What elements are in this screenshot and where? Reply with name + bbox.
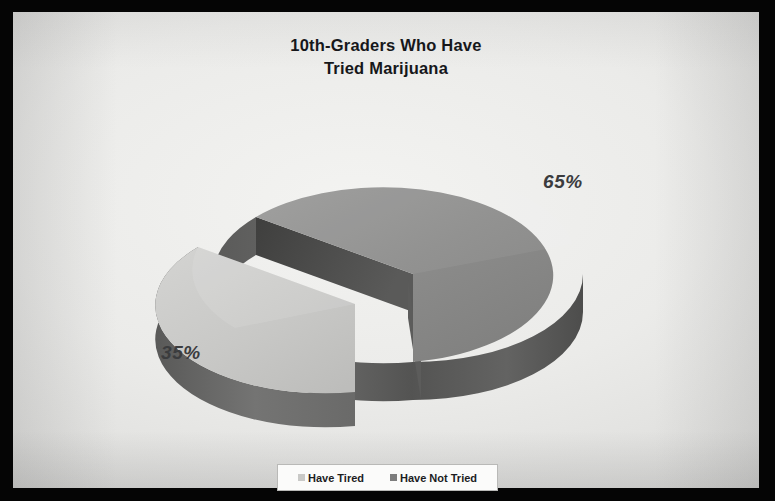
legend-label-have-not-tried: Have Not Tried bbox=[400, 472, 477, 484]
slide-frame: 10th-Graders Who Have Tried Marijuana bbox=[0, 0, 775, 501]
legend-item-have-tired[interactable]: Have Tired bbox=[298, 472, 364, 484]
chart-title: 10th-Graders Who Have Tried Marijuana bbox=[13, 34, 759, 80]
legend-item-have-not-tried[interactable]: Have Not Tried bbox=[390, 472, 477, 484]
legend-swatch-have-tired bbox=[298, 474, 305, 481]
chart-title-line-1: 10th-Graders Who Have bbox=[13, 34, 759, 57]
chart-title-line-2: Tried Marijuana bbox=[13, 57, 759, 80]
data-label-have-tired: 35% bbox=[161, 342, 201, 364]
legend-label-have-tired: Have Tired bbox=[308, 472, 364, 484]
chart-plot-area: 10th-Graders Who Have Tried Marijuana bbox=[13, 12, 759, 488]
chart-legend: Have Tired Have Not Tried bbox=[277, 464, 498, 491]
data-label-have-not-tried: 65% bbox=[543, 171, 583, 193]
pie-chart-graphic bbox=[13, 12, 759, 488]
legend-swatch-have-not-tried bbox=[390, 474, 397, 481]
